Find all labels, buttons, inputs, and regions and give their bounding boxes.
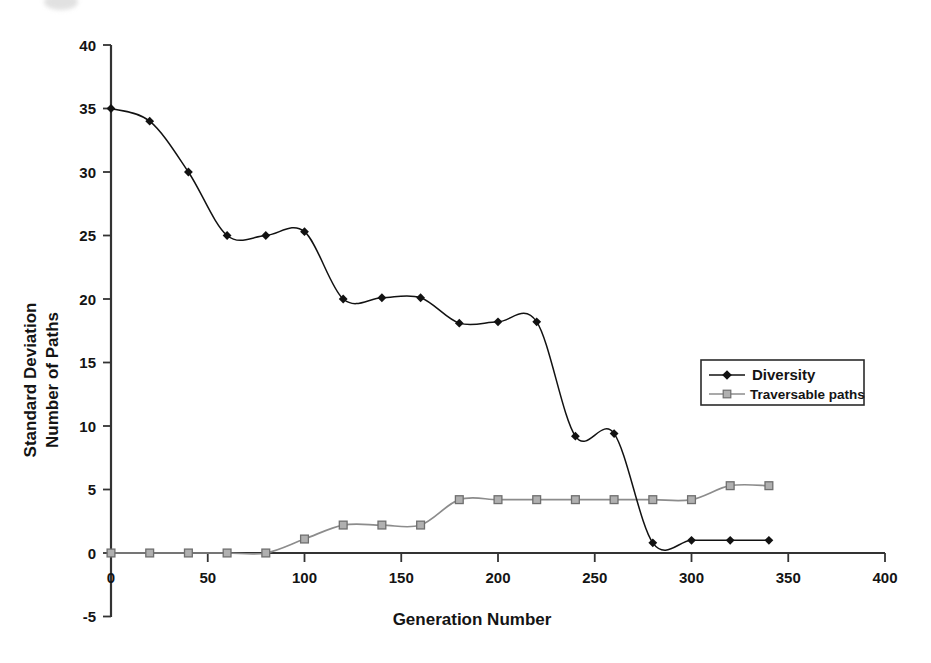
y-tick-label: 0 (88, 545, 96, 562)
series-diversity (107, 104, 774, 550)
data-point-marker (223, 549, 231, 557)
y-tick-label: 30 (79, 164, 96, 181)
data-point-marker (687, 536, 696, 545)
data-point-marker (533, 496, 541, 504)
chart-legend: Diversity Traversable paths (701, 360, 865, 405)
y-axis-ticks (103, 45, 111, 617)
y-tick-label: 10 (79, 418, 96, 435)
data-point-marker (378, 521, 386, 529)
y-tick-label: 5 (88, 481, 96, 498)
x-tick-label: 400 (872, 569, 897, 586)
data-point-marker (494, 317, 503, 326)
data-point-marker (184, 168, 193, 177)
x-tick-label: 250 (582, 569, 607, 586)
x-tick-label: 50 (199, 569, 216, 586)
data-point-marker (107, 104, 116, 113)
y-axis-title-line-2: Number of Paths (43, 312, 62, 448)
y-tick-label: 20 (79, 291, 96, 308)
data-point-marker (494, 496, 502, 504)
legend-label-diversity: Diversity (752, 366, 816, 383)
data-point-marker (455, 496, 463, 504)
y-tick-label: 35 (79, 100, 96, 117)
data-point-marker (726, 482, 734, 490)
y-tick-label: -5 (83, 608, 96, 625)
x-tick-label: 300 (679, 569, 704, 586)
data-point-marker (416, 293, 425, 302)
y-axis-title-line-1: Standard Deviation (21, 303, 40, 458)
y-axis-tick-labels: -50510152025303540 (79, 37, 96, 626)
series-line (111, 485, 769, 554)
x-tick-label: 350 (776, 569, 801, 586)
data-point-marker (572, 496, 580, 504)
data-point-marker (417, 521, 425, 529)
y-tick-label: 15 (79, 354, 96, 371)
series-line (111, 109, 769, 551)
data-point-marker (262, 549, 270, 557)
data-point-marker (146, 549, 154, 557)
x-axis-title: Generation Number (393, 610, 552, 629)
data-point-marker (688, 496, 696, 504)
series-traversable-paths (107, 482, 773, 557)
data-point-marker (610, 496, 618, 504)
data-point-marker (107, 549, 115, 557)
data-point-marker (765, 536, 774, 545)
chart-figure: -50510152025303540 050100150200250300350… (0, 0, 931, 663)
legend-label-traversable-paths: Traversable paths (750, 387, 865, 402)
data-point-marker (726, 536, 735, 545)
square-marker-icon (723, 390, 731, 398)
data-point-marker (378, 293, 387, 302)
data-point-marker (301, 535, 309, 543)
chart-canvas: -50510152025303540 050100150200250300350… (0, 0, 931, 663)
data-point-marker (765, 482, 773, 490)
data-point-marker (649, 496, 657, 504)
x-tick-label: 100 (292, 569, 317, 586)
data-point-marker (339, 521, 347, 529)
x-tick-label: 200 (485, 569, 510, 586)
x-axis-tick-labels: 050100150200250300350400 (107, 569, 898, 586)
data-point-marker (261, 231, 270, 240)
y-tick-label: 40 (79, 37, 96, 54)
x-tick-label: 0 (107, 569, 115, 586)
data-point-marker (455, 319, 464, 328)
data-point-marker (185, 549, 193, 557)
x-tick-label: 150 (389, 569, 414, 586)
y-tick-label: 25 (79, 227, 96, 244)
